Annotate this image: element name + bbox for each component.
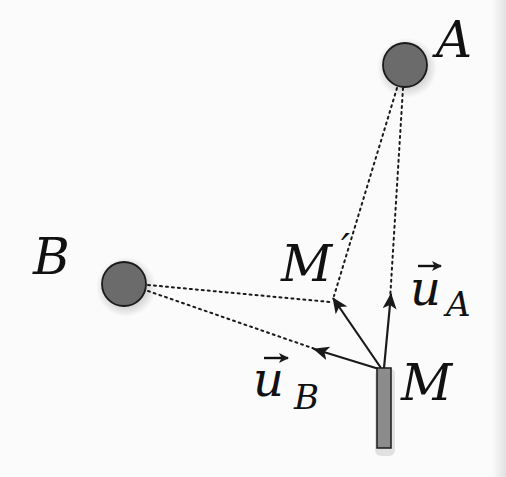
- label-b: B: [32, 228, 70, 286]
- point-a-circle: [383, 43, 427, 87]
- geometry-diagram: A B M ′ M u A u B: [0, 0, 506, 477]
- label-m: M: [400, 354, 454, 412]
- point-b-circle: [102, 262, 146, 306]
- label-u-b-subscript: B: [293, 377, 319, 417]
- dotted-lines-from-b: [148, 285, 330, 350]
- label-a: A: [432, 11, 472, 69]
- label-m-prime: M ′: [280, 225, 350, 293]
- label-u-a-subscript: A: [443, 284, 471, 324]
- label-m-prime-mark: ′: [341, 225, 350, 271]
- label-u-a: u A: [410, 260, 471, 324]
- label-u-a-symbol: u: [410, 260, 441, 316]
- point-m-sensor: [377, 368, 391, 448]
- vector-u-a: [384, 294, 391, 368]
- dotted-line-a-to-m: [390, 88, 403, 300]
- diagram-canvas: A B M ′ M u A u B: [0, 0, 506, 477]
- label-u-b-symbol: u: [253, 351, 284, 407]
- dotted-line-b-to-m: [148, 291, 318, 350]
- label-u-b: u B: [253, 351, 319, 417]
- vectors-from-m: [314, 294, 391, 369]
- label-m-prime-letter: M: [280, 235, 334, 293]
